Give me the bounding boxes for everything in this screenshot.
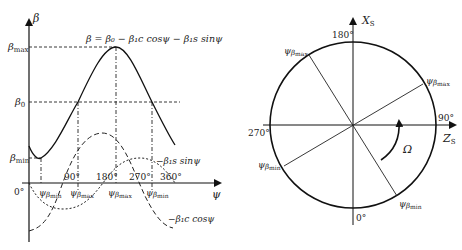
cos-component-label: −β₁c cosψ [168,214,215,224]
flapping-angle-plot: β ψ βmax β0 βmin β = β₀ − β₁c cosψ − β₁s… [7,12,223,242]
x-tick-0: 0° [14,187,24,197]
x-tick-360: 360° [160,172,182,182]
beta-max-label: βmax [7,41,29,54]
psi-beta-min-circle-label: ψβmin [399,199,422,210]
x-tick-270: 270° [129,172,151,182]
sin-component-label: −β₁s sinψ [156,156,201,166]
beta-min-label: βmin [9,152,30,165]
psi-beta-max-circle-label: ψβmax [284,46,308,57]
psi-beta-min-label: ψβmin [39,188,62,199]
angle-90-label: 90° [438,113,454,123]
beta-axis-label: β [32,12,39,25]
angle-180-label: 180° [332,30,354,40]
cos-component-curve [29,133,173,231]
psi-betadot-max-label: ψβ̇max [70,188,94,199]
rotor-azimuth-circle: XS ZS 180° 90° 0° 270° Ω ψβmax ψβ̇max ψβ… [248,14,456,225]
omega-label: Ω [402,143,412,156]
rotation-arrow [381,121,399,160]
psi-betadot-min-circle-label: ψβ̇min [258,160,281,171]
x-tick-180: 180° [96,172,118,182]
beta-0-label: β0 [14,96,25,109]
blade-flapping-diagram: β ψ βmax β0 βmin β = β₀ − β₁c cosψ − β₁s… [0,0,462,250]
psi-beta-max-label: ψβmax [108,188,132,199]
beta-curve [29,47,175,159]
beta-equation: β = β₀ − β₁c cosψ − β₁s sinψ [85,33,223,44]
x-tick-90: 90° [64,172,80,182]
psi-betadot-min-label: ψβ̇min [146,188,169,199]
psi-axis-label: ψ [212,188,221,201]
zs-axis-label: ZS [442,132,456,146]
psi-betadot-max-circle-label: ψβ̇max [426,76,450,87]
angle-0-label: 0° [356,213,366,223]
angle-270-label: 270° [248,128,270,138]
xs-axis-label: XS [361,14,375,28]
